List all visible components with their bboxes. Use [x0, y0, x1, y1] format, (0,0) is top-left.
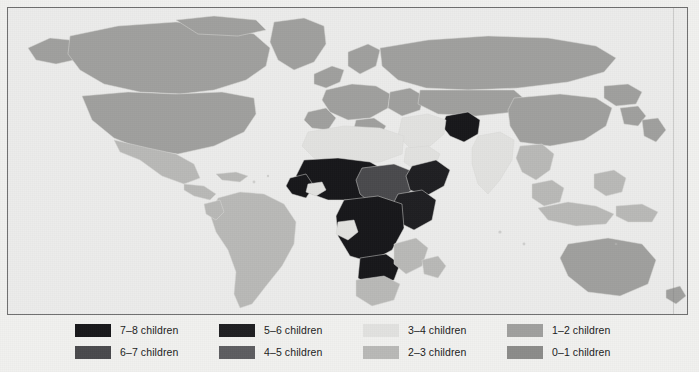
- legend-item: 6–7 children: [75, 344, 235, 360]
- legend-item: 2–3 children: [363, 344, 523, 360]
- legend-swatch-icon: [75, 346, 111, 359]
- legend-label: 2–3 children: [408, 346, 466, 358]
- legend-column-4: 1–2 children 0–1 children: [507, 322, 667, 366]
- region-north-africa: [302, 126, 404, 164]
- legend-column-1: 7–8 children 6–7 children: [75, 322, 235, 366]
- legend-item: 4–5 children: [219, 344, 379, 360]
- legend-item: 1–2 children: [507, 322, 667, 338]
- legend-swatch-icon: [219, 324, 255, 337]
- legend-swatch-icon: [363, 324, 399, 337]
- map-canvas: .c7{fill:#17171a} .c6{fill:#4a4a4d} .c5{…: [8, 8, 687, 314]
- world-map-svg: .c7{fill:#17171a} .c6{fill:#4a4a4d} .c5{…: [8, 8, 687, 314]
- legend-label: 7–8 children: [120, 324, 178, 336]
- legend-label: 0–1 children: [552, 346, 610, 358]
- legend-item: 5–6 children: [219, 322, 379, 338]
- legend-label: 3–4 children: [408, 324, 466, 336]
- legend-column-3: 3–4 children 2–3 children: [363, 322, 523, 366]
- scan-artifact-line: [673, 8, 674, 314]
- legend-swatch-icon: [507, 324, 543, 337]
- legend-label: 1–2 children: [552, 324, 610, 336]
- legend-label: 4–5 children: [264, 346, 322, 358]
- legend-swatch-icon: [507, 346, 543, 359]
- legend-swatch-icon: [219, 346, 255, 359]
- legend-item: 3–4 children: [363, 322, 523, 338]
- legend-column-2: 5–6 children 4–5 children: [219, 322, 379, 366]
- legend-swatch-icon: [75, 324, 111, 337]
- map-frame: .c7{fill:#17171a} .c6{fill:#4a4a4d} .c5{…: [7, 7, 688, 315]
- legend-item: 7–8 children: [75, 322, 235, 338]
- legend: 7–8 children 6–7 children 5–6 children 4…: [7, 322, 686, 368]
- legend-swatch-icon: [363, 346, 399, 359]
- legend-label: 6–7 children: [120, 346, 178, 358]
- legend-label: 5–6 children: [264, 324, 322, 336]
- world-fertility-map-figure: .c7{fill:#17171a} .c6{fill:#4a4a4d} .c5{…: [0, 0, 699, 372]
- legend-item: 0–1 children: [507, 344, 667, 360]
